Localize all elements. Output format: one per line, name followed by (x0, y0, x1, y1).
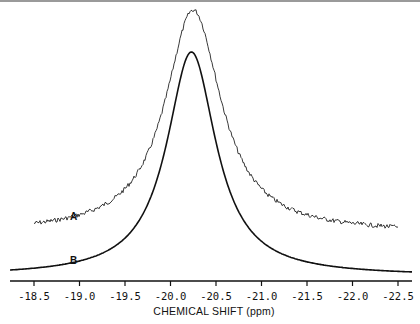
x-tick-label: -21.0 (246, 290, 278, 302)
x-tick-label: -18.5 (18, 290, 50, 302)
x-tick-label: -22.0 (337, 290, 369, 302)
x-tick-label: -21.5 (291, 290, 323, 302)
series-a-curve (34, 10, 398, 229)
x-tick-label: -19.5 (109, 290, 141, 302)
series-a-label: A (70, 211, 77, 222)
x-axis-ticks: -18.5-19.0-19.5-20.0-20.5-21.0-21.5-22.0… (18, 281, 414, 302)
series-b-curve (10, 52, 412, 272)
x-tick-label: -19.0 (64, 290, 96, 302)
x-axis-title: CHEMICAL SHIFT (ppm) (153, 305, 274, 317)
nmr-spectrum-chart: -18.5-19.0-19.5-20.0-20.5-21.0-21.5-22.0… (0, 0, 420, 324)
x-tick-label: -22.5 (382, 290, 414, 302)
x-tick-label: -20.5 (200, 290, 232, 302)
plot-area (10, 10, 412, 272)
series-b-label: B (70, 255, 77, 266)
x-tick-label: -20.0 (155, 290, 187, 302)
